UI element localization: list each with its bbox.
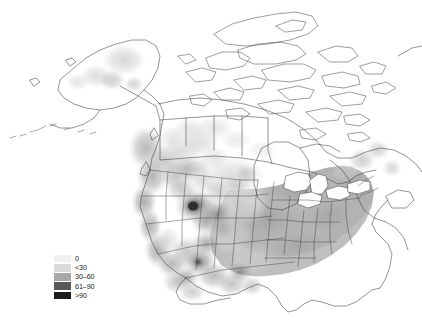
legend-label-4: >90 [75,292,87,299]
density-legend: 0 <30 30–60 61–90 >90 [54,254,114,300]
legend-label-1: <30 [75,264,87,271]
legend-label-0: 0 [75,255,79,262]
legend-row: 0 [54,254,114,263]
legend-swatch-4 [54,292,71,300]
legend-row: 30–60 [54,272,114,281]
legend-swatch-2 [54,273,71,281]
legend-label-3: 61–90 [75,283,95,290]
north-america-density-map: 0 <30 30–60 61–90 >90 [0,0,422,329]
legend-swatch-1 [54,264,71,272]
legend-swatch-0 [54,255,71,263]
legend-row: 61–90 [54,282,114,291]
legend-label-2: 30–60 [75,273,95,280]
legend-row: >90 [54,291,114,300]
legend-swatch-3 [54,282,71,290]
legend-row: <30 [54,263,114,272]
